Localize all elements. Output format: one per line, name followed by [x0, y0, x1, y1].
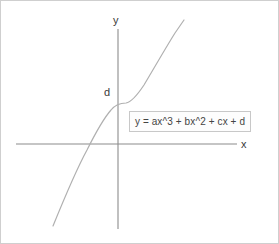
- equation-label-box: y = ax^3 + bx^2 + cx + d: [129, 111, 251, 132]
- figure-frame: y x d y = ax^3 + bx^2 + cx + d: [0, 0, 279, 244]
- y-axis-label: y: [113, 15, 119, 26]
- x-axis-label: x: [241, 139, 247, 150]
- equation-text: y = ax^3 + bx^2 + cx + d: [135, 116, 245, 127]
- y-intercept-label: d: [104, 87, 110, 98]
